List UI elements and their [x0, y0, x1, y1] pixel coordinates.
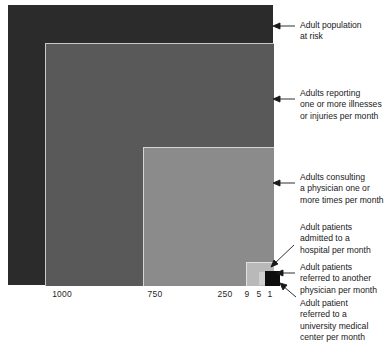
label-line: more times per month — [300, 195, 384, 206]
label-adults-admitted-hospital: Adult patients admitted to a hospital pe… — [300, 222, 371, 256]
label-adult-referred-university: Adult patient referred to a university m… — [300, 298, 368, 343]
label-line: or injuries per month — [300, 111, 382, 122]
label-line: Adult population — [300, 20, 362, 31]
label-line: admitted to a — [300, 233, 371, 244]
axis-tick-250: 250 — [209, 289, 241, 299]
label-adult-population-at-risk: Adult population at risk — [300, 20, 362, 43]
label-line: a physician one or — [300, 183, 384, 194]
label-line: hospital per month — [300, 245, 371, 256]
axis-tick-750: 750 — [139, 289, 171, 299]
square-adult-referred-university — [265, 271, 280, 286]
label-line: Adult patients — [300, 262, 377, 273]
label-adults-referred-physician: Adult patients referred to another physi… — [300, 262, 377, 296]
axis-tick-9: 9 — [241, 289, 253, 299]
label-line: Adults reporting — [300, 88, 382, 99]
axis-tick-1: 1 — [264, 289, 276, 299]
nested-squares-figure: 1000 750 250 9 5 1 Adult population at r… — [0, 0, 384, 343]
label-line: university medical — [300, 321, 368, 332]
label-line: referred to a — [300, 309, 368, 320]
label-line: referred to another — [300, 273, 377, 284]
label-line: center per month — [300, 332, 368, 343]
label-line: at risk — [300, 31, 362, 42]
label-line: one or more illnesses — [300, 99, 382, 110]
label-line: Adults consulting — [300, 172, 384, 183]
label-line: Adult patients — [300, 222, 371, 233]
label-adults-reporting-illness: Adults reporting one or more illnesses o… — [300, 88, 382, 122]
label-line: physician per month — [300, 285, 377, 296]
label-line: Adult patient — [300, 298, 368, 309]
axis-tick-1000: 1000 — [46, 289, 78, 299]
label-adults-consulting-physician: Adults consulting a physician one or mor… — [300, 172, 384, 206]
